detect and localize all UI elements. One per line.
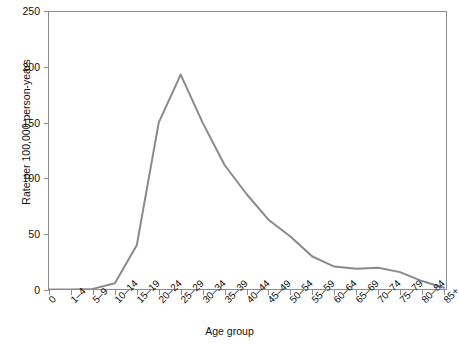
data-line-series — [48, 11, 447, 290]
y-tick-label: 50 — [6, 229, 40, 240]
y-tick-label: 0 — [6, 285, 40, 296]
y-axis-title: Rate per 100,000 person-years — [20, 12, 32, 252]
series-rate-line — [49, 75, 444, 290]
y-tick-label: 250 — [6, 6, 40, 17]
y-tick-label: 100 — [6, 173, 40, 184]
line-chart: Rate per 100,000 person-years 0501001502… — [0, 0, 459, 344]
y-tick-label: 150 — [6, 118, 40, 129]
y-tick-label: 200 — [6, 62, 40, 73]
x-tick-label: 0 — [47, 294, 58, 305]
x-axis-title: Age group — [0, 325, 459, 337]
